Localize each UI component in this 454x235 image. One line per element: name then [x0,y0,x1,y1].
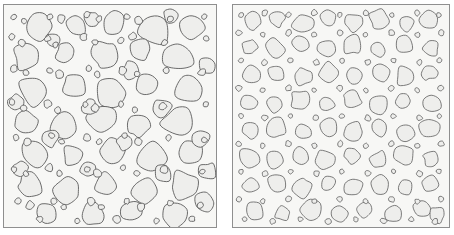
grain [75,218,80,223]
grain [319,61,339,82]
grain [298,217,303,221]
grain [45,163,53,171]
grain [167,16,173,22]
grain [295,124,311,138]
grain [275,206,290,221]
grain [11,167,16,173]
grain [292,36,309,51]
grain [124,198,129,204]
grain [66,16,85,35]
grain [86,65,91,71]
grain [44,100,52,108]
grain [163,67,169,73]
grain [344,179,363,194]
grain [266,38,286,59]
grain [26,201,35,210]
grain [291,91,309,109]
grain [422,175,439,191]
grain [128,32,136,40]
grain [325,219,331,225]
grain [390,13,394,18]
grain [242,217,247,222]
grain [369,150,385,167]
grain [203,36,209,41]
grain [245,11,261,30]
grain [396,35,412,52]
grain [104,11,124,35]
grain [331,206,348,222]
grain [154,218,159,224]
grain [266,117,285,137]
grain [236,141,242,146]
grain [84,167,90,172]
grain [337,30,343,36]
grain [391,59,396,63]
grain [340,169,345,174]
grain [127,115,150,137]
grain [47,68,53,73]
grain [288,114,292,118]
grain [56,70,64,78]
grain [24,138,31,146]
grain [47,14,53,20]
grain [242,178,259,192]
grain [53,42,58,48]
grain [439,196,444,202]
grain [437,58,442,63]
grain [419,120,440,137]
grain [130,39,150,61]
grain [180,16,206,40]
grain [262,59,268,65]
grain [389,30,395,36]
grain [338,140,343,147]
grain [286,29,292,36]
grain [415,32,420,37]
grain [286,196,292,202]
grain [267,97,282,113]
grain [372,119,387,137]
grain [15,110,38,132]
grain [239,114,244,119]
grain [94,71,99,78]
grain [94,169,102,177]
grain [269,12,285,28]
grain [395,94,410,109]
grain [371,42,385,57]
grain [242,65,260,83]
grain [113,216,121,224]
grain [292,178,312,199]
grain [288,58,293,63]
grain [388,85,394,91]
grain [236,197,241,202]
grain [14,43,39,70]
grain [172,170,198,200]
grain [131,178,157,204]
grain [21,19,26,24]
grain [300,199,321,220]
grain [198,69,206,76]
grain [295,68,313,86]
grain [312,143,317,148]
grain [322,176,336,190]
grain [417,115,423,120]
grain [236,30,243,35]
grain [393,146,413,165]
grain [397,125,415,142]
grain [363,10,368,15]
grain [344,34,361,53]
grain [260,32,265,37]
grain [61,204,67,209]
grain [365,115,371,121]
grain [286,12,292,17]
grain [400,17,414,32]
grain [419,10,438,28]
grain [242,123,258,140]
grain [371,174,388,194]
grain [261,115,268,121]
grain [409,217,414,222]
grain [363,88,368,93]
grain [122,133,127,138]
grain [311,9,317,15]
grain [23,70,29,76]
grain [389,197,395,202]
